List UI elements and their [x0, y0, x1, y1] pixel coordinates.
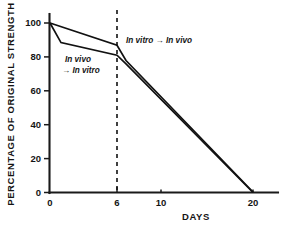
y-tick-label-80: 80 — [30, 51, 41, 62]
x-tick-label-6: 6 — [114, 197, 119, 208]
x-tick-label-0: 0 — [47, 197, 52, 208]
annotation-in-vivo-to-in-vitro-line2: → In vitro — [62, 66, 100, 75]
x-tick-label-20: 20 — [248, 197, 259, 208]
y-tick-label-0: 0 — [36, 187, 41, 198]
line-chart: 0 20 40 60 80 100 0 6 10 20 DAYS PERCENT… — [0, 0, 292, 225]
y-axis-title: PERCENTAGE OF ORIGINAL STRENGTH — [5, 2, 16, 206]
annotation-in-vivo-to-in-vitro-line1: In vivo — [65, 55, 91, 64]
x-tick-label-10: 10 — [156, 197, 167, 208]
x-axis-title: DAYS — [182, 211, 210, 222]
y-tick-label-20: 20 — [30, 153, 41, 164]
y-tick-label-40: 40 — [30, 119, 41, 130]
series-line-in-vitro-to-in-vivo — [50, 23, 253, 192]
chart-figure: 0 20 40 60 80 100 0 6 10 20 DAYS PERCENT… — [0, 0, 292, 225]
y-tick-label-100: 100 — [25, 17, 41, 28]
y-tick-label-60: 60 — [30, 85, 41, 96]
annotation-in-vitro-to-in-vivo: In vitro → In vivo — [126, 36, 192, 45]
series-line-in-vivo-to-in-vitro — [50, 23, 253, 193]
